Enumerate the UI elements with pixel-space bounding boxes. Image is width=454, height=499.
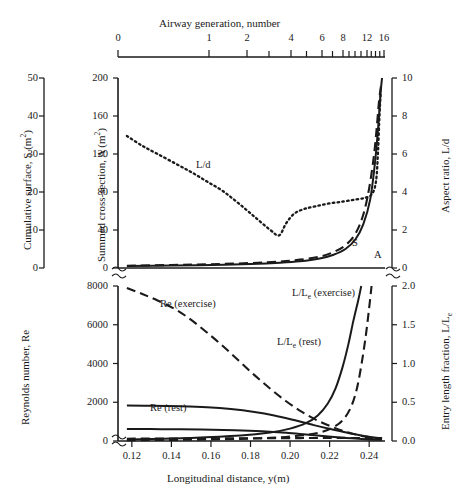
tick-label: 10: [402, 73, 413, 84]
curve-label-l-over-d: L/d: [196, 160, 211, 171]
tick-label: 1.0: [402, 359, 415, 370]
tick-label: 120: [74, 149, 108, 160]
tick-label: 6: [402, 149, 407, 160]
tick-label: 2.0: [402, 281, 415, 292]
tick-label: 0: [74, 263, 108, 274]
tick-label: 4000: [74, 359, 108, 370]
tick-label: 8: [402, 111, 407, 122]
tick-label: 40: [4, 111, 38, 122]
upper-panel-frame: [39, 78, 397, 268]
curve-label-l-over-le-rest: L/Le (rest): [277, 337, 321, 350]
tick-label: 0: [108, 33, 128, 44]
tick-label: 0: [74, 436, 108, 447]
tick-label: 0.22: [317, 451, 343, 462]
lower-panel-frame: [113, 286, 397, 447]
tick-label: 0: [402, 263, 407, 274]
curve-label-s: S: [352, 238, 358, 249]
tick-label: 0.24: [356, 451, 382, 462]
tick-label: 0.14: [158, 451, 184, 462]
tick-label: 0.18: [238, 451, 264, 462]
tick-label: 8000: [74, 281, 108, 292]
curve-label-a: A: [374, 250, 382, 261]
tick-label: 6: [312, 33, 332, 44]
tick-label: 0: [4, 263, 38, 274]
curve-a: [127, 78, 382, 266]
tick-label: 20: [4, 187, 38, 198]
top-axis-title: Airway generation, number: [159, 18, 280, 29]
tick-label: 200: [74, 73, 108, 84]
axis-break-marker: [112, 267, 400, 446]
tick-label: 0.16: [198, 451, 224, 462]
tick-label: 6000: [74, 320, 108, 331]
tick-label: 0.12: [119, 451, 145, 462]
tick-label: 10: [4, 225, 38, 236]
top-axis: [118, 50, 385, 57]
tick-label: 1: [199, 33, 219, 44]
tick-label: 8: [333, 33, 353, 44]
tick-label: 30: [4, 149, 38, 160]
tick-label: 16: [374, 33, 394, 44]
curve-label-l-over-le-exercise: L/Le (exercise): [292, 288, 355, 301]
upper-panel-curves: [127, 78, 382, 266]
tick-label: 4: [402, 187, 407, 198]
reynolds-number-axis-title: Reynolds number, Re: [20, 330, 31, 425]
tick-label: 0.20: [277, 451, 303, 462]
tick-label: 0.5: [402, 397, 415, 408]
tick-label: 1.5: [402, 320, 415, 331]
tick-label: 2: [402, 225, 407, 236]
tick-label: 2: [237, 33, 257, 44]
aspect-ratio-axis-title: Aspect ratio, L/d: [440, 139, 451, 213]
curve-label-re-rest: Re (rest): [150, 403, 186, 414]
curve-l-d: [127, 93, 381, 235]
tick-label: 4: [281, 33, 301, 44]
entry-length-fraction-axis-title: Entry length fraction, L/Le: [440, 313, 454, 430]
tick-label: 50: [4, 73, 38, 84]
tick-label: 80: [74, 187, 108, 198]
tick-label: 2000: [74, 397, 108, 408]
bottom-axis-title: Longitudinal distance, y(m): [167, 473, 290, 484]
tick-label: 0.0: [402, 436, 415, 447]
tick-label: 40: [74, 225, 108, 236]
curve-s: [127, 86, 381, 266]
tick-label: 160: [74, 111, 108, 122]
curve-label-re-exercise: Re (exercise): [160, 299, 216, 310]
